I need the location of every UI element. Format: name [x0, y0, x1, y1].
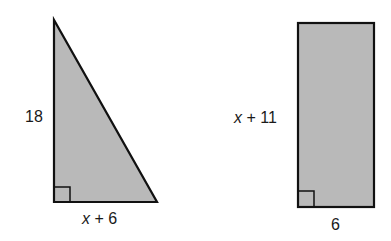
triangle-side-label: 18 — [25, 109, 43, 125]
triangle-base-expression: + 6 — [90, 210, 117, 227]
rectangle-side-variable: x — [234, 109, 242, 126]
triangle-base-label: x + 6 — [82, 211, 117, 227]
rectangle-base-label: 6 — [331, 217, 340, 233]
rectangle — [298, 23, 374, 207]
rectangle-side-label: x + 11 — [234, 110, 277, 126]
triangle-base-variable: x — [82, 210, 90, 227]
right-triangle — [54, 20, 157, 202]
rectangle-side-expression: + 11 — [242, 109, 277, 126]
diagram-canvas — [0, 0, 391, 241]
